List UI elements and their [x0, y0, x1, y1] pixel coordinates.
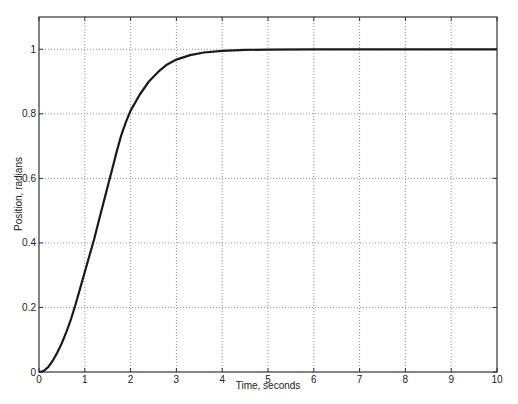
x-tick-label: 1: [82, 374, 88, 385]
y-tick-label: 0.2: [22, 302, 36, 313]
y-tick-label: 0: [30, 367, 36, 378]
x-tick-label: 7: [357, 374, 363, 385]
x-tick-label: 2: [128, 374, 134, 385]
grid-lines: [39, 17, 497, 372]
y-tick-labels: 00.20.40.60.81: [22, 44, 36, 378]
x-tick-label: 4: [219, 374, 225, 385]
chart: 012345678910 00.20.40.60.81 Time, second…: [0, 0, 518, 404]
x-tick-label: 3: [174, 374, 180, 385]
y-axis-label: Position, radians: [13, 157, 24, 231]
y-tick-label: 0.6: [22, 173, 36, 184]
x-tick-label: 10: [491, 374, 503, 385]
x-axis-label: Time, seconds: [236, 380, 301, 391]
y-tick-label: 1: [30, 44, 36, 55]
x-tick-label: 8: [403, 374, 409, 385]
x-tick-label: 6: [311, 374, 317, 385]
y-tick-label: 0.4: [22, 237, 36, 248]
y-tick-label: 0.8: [22, 108, 36, 119]
x-tick-label: 0: [36, 374, 42, 385]
x-tick-label: 9: [448, 374, 454, 385]
